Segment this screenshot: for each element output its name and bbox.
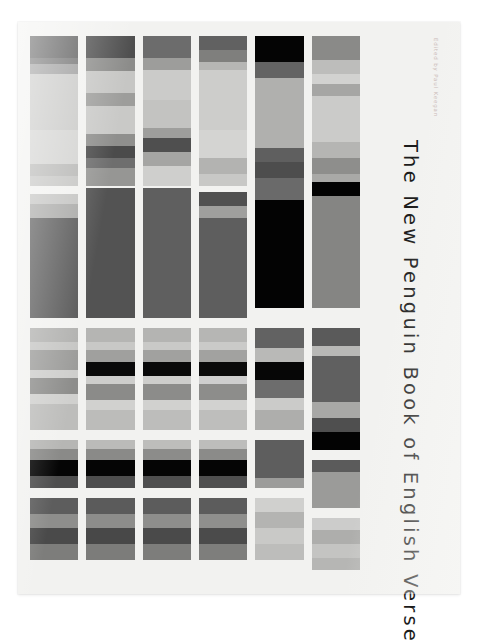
block-4-3-stripe-3 <box>199 350 247 362</box>
block-4-3-stripe-2 <box>199 342 247 350</box>
block-3-3-stripe-4 <box>143 362 191 376</box>
block-3-3-stripe-6 <box>143 384 191 400</box>
block-4-5-stripe-4 <box>199 544 247 560</box>
block-2-4-stripe-3 <box>86 460 134 476</box>
block-6-2-stripe-4 <box>312 402 360 418</box>
block-2-1-stripe-6 <box>86 134 134 146</box>
block-1-2-stripe-1 <box>30 194 78 204</box>
block-3-4-stripe-2 <box>143 449 191 460</box>
block-2-2-stripe-1 <box>86 188 134 318</box>
block-1-3-stripe-3 <box>30 350 78 370</box>
block-1-1-stripe-1 <box>30 36 78 58</box>
block-5-1-stripe-6 <box>255 178 303 200</box>
block-5-3 <box>255 440 303 488</box>
block-3-1-stripe-4 <box>143 100 191 128</box>
block-2-3-stripe-5 <box>86 376 134 384</box>
block-3-4 <box>143 440 191 488</box>
block-4-5-stripe-3 <box>199 528 247 544</box>
block-3-5-stripe-3 <box>143 528 191 544</box>
block-4-4-stripe-3 <box>199 460 247 476</box>
block-4-3-stripe-1 <box>199 328 247 342</box>
block-2-3-stripe-1 <box>86 328 134 342</box>
block-6-1-stripe-4 <box>312 84 360 96</box>
block-6-3 <box>312 460 360 508</box>
block-3-4-stripe-4 <box>143 476 191 488</box>
block-1-3 <box>30 328 78 430</box>
block-6-1-stripe-8 <box>312 174 360 182</box>
block-2-3-stripe-3 <box>86 350 134 362</box>
book-cover: Edited by Paul Keegan The New Penguin Bo… <box>18 22 460 594</box>
block-6-4-stripe-3 <box>312 544 360 558</box>
block-1-3-stripe-7 <box>30 404 78 430</box>
block-1-5-stripe-4 <box>30 544 78 560</box>
block-6-1-stripe-1 <box>312 36 360 60</box>
block-2-1-stripe-8 <box>86 158 134 168</box>
block-2-1-stripe-7 <box>86 146 134 158</box>
block-2-1-stripe-5 <box>86 106 134 134</box>
block-5-1 <box>255 36 303 308</box>
block-4-4-stripe-1 <box>199 440 247 449</box>
block-1-1-stripe-6 <box>30 164 78 176</box>
block-3-2-stripe-1 <box>143 188 191 318</box>
block-4-1-stripe-1 <box>199 36 247 50</box>
block-5-1-stripe-1 <box>255 36 303 62</box>
block-5-2-stripe-1 <box>255 328 303 348</box>
block-4-1-stripe-5 <box>199 130 247 158</box>
block-1-4 <box>30 440 78 488</box>
block-2-1-stripe-3 <box>86 71 134 93</box>
block-4-5-stripe-2 <box>199 514 247 528</box>
block-1-5-stripe-3 <box>30 528 78 544</box>
block-2-1-stripe-9 <box>86 168 134 186</box>
block-1-2-stripe-3 <box>30 218 78 318</box>
block-3-1 <box>143 36 191 186</box>
block-5-2-stripe-3 <box>255 362 303 380</box>
block-2-4-stripe-4 <box>86 476 134 488</box>
block-4-3-stripe-4 <box>199 362 247 376</box>
block-5-2-stripe-5 <box>255 398 303 410</box>
block-4-2-stripe-1 <box>199 192 247 206</box>
block-2-3-stripe-4 <box>86 362 134 376</box>
block-3-3-stripe-2 <box>143 342 191 350</box>
block-5-1-stripe-2 <box>255 62 303 78</box>
block-1-4-stripe-2 <box>30 449 78 460</box>
block-1-3-stripe-1 <box>30 328 78 342</box>
block-3-3-stripe-8 <box>143 410 191 430</box>
block-4-3-stripe-8 <box>199 410 247 430</box>
block-5-1-stripe-7 <box>255 200 303 308</box>
block-6-4-stripe-1 <box>312 518 360 530</box>
block-5-2 <box>255 328 303 430</box>
block-2-1-stripe-1 <box>86 36 134 58</box>
block-3-1-stripe-6 <box>143 138 191 152</box>
column-3 <box>143 36 191 578</box>
block-6-1-stripe-3 <box>312 74 360 84</box>
block-5-3-stripe-2 <box>255 478 303 488</box>
block-6-4-stripe-2 <box>312 530 360 544</box>
block-4-1-stripe-6 <box>199 158 247 174</box>
cover-title-text: The New Penguin Book of English Verse <box>401 140 421 644</box>
block-3-3-stripe-7 <box>143 400 191 410</box>
block-2-5-stripe-2 <box>86 514 134 528</box>
block-5-4-stripe-2 <box>255 512 303 528</box>
block-6-3-stripe-2 <box>312 472 360 508</box>
block-4-3-stripe-7 <box>199 400 247 410</box>
column-4 <box>199 36 247 578</box>
column-6 <box>312 36 360 578</box>
block-2-3 <box>86 328 134 430</box>
block-3-3-stripe-3 <box>143 350 191 362</box>
block-6-1-stripe-5 <box>312 96 360 142</box>
block-5-4-stripe-3 <box>255 528 303 544</box>
block-1-1-stripe-5 <box>30 130 78 164</box>
block-4-3-stripe-5 <box>199 376 247 384</box>
block-3-5-stripe-1 <box>143 498 191 514</box>
block-6-1-stripe-7 <box>312 158 360 174</box>
block-4-1-stripe-2 <box>199 50 247 62</box>
block-5-4-stripe-4 <box>255 544 303 560</box>
block-3-1-stripe-5 <box>143 128 191 138</box>
block-6-2-stripe-6 <box>312 432 360 450</box>
block-4-4-stripe-2 <box>199 449 247 460</box>
block-1-5-stripe-2 <box>30 514 78 528</box>
block-1-5 <box>30 498 78 560</box>
block-4-2 <box>199 192 247 318</box>
block-6-1-stripe-9 <box>312 182 360 196</box>
